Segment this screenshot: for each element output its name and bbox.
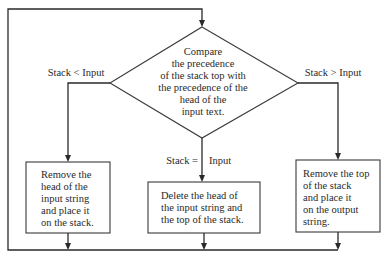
arrow-down-icon [335,153,341,160]
arrow-down-icon [201,243,207,250]
action-right-line-3: and place it [303,192,351,203]
branch-stack-equals-input: Stack = Input Delete the head of the inp… [148,138,260,250]
arrow-down-icon [65,243,71,250]
branch-label-less: Stack < Input [48,67,105,78]
flowchart: Compare the precedence of the stack top … [0,0,387,257]
branch-stack-greater-than-input: Stack > Input Remove the top of the stac… [296,67,380,250]
branch-label-equal-left: Stack = [166,155,198,166]
action-left-line-4: and place it [41,205,89,216]
arrow-down-icon [65,155,71,162]
action-middle-line-2: the input string and [161,202,243,213]
decision-line-5: head of the [180,94,227,105]
action-left-line-1: Remove the [41,169,92,180]
arrow-down-icon [199,175,205,182]
arrow-down-icon [335,243,341,250]
branch-stack-less-than-input: Stack < Input Remove the head of the inp… [26,67,110,250]
decision-line-6: input text. [182,106,225,117]
decision-line-2: the precedence [172,58,235,69]
action-right-line-4: on the output [303,204,358,215]
action-middle-line-3: the top of the stack. [161,214,244,225]
decision-line-3: of the stack top with [160,70,246,81]
action-left-line-5: on the stack. [41,217,94,228]
action-right-line-2: of the stack [303,180,352,191]
action-left-line-3: input string [41,193,90,204]
action-left-line-2: head of the [41,181,88,192]
arrow-into-decision-icon [199,20,205,27]
branch-label-equal-right: Input [209,155,231,166]
decision-line-1: Compare [184,46,223,57]
action-middle-line-1: Delete the head of [161,190,238,201]
decision-node: Compare the precedence of the stack top … [110,27,298,138]
decision-line-4: the precedence of the [158,82,248,93]
action-right-line-1: Remove the top [303,168,370,179]
action-right-line-5: string. [303,216,330,227]
branch-label-greater: Stack > Input [305,67,362,78]
